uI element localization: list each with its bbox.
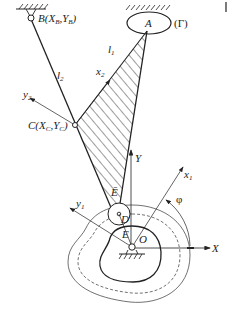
ground-support-a <box>126 5 170 10</box>
label-phi: φ <box>176 193 182 205</box>
label-y: Y <box>135 152 143 164</box>
label-o: O <box>139 233 147 245</box>
label-b: B(XB,YB) <box>38 12 77 26</box>
label-e: E <box>121 228 129 240</box>
fixed-pivot-o <box>119 244 145 259</box>
label-d: D <box>120 213 129 225</box>
label-x2: x2 <box>95 65 105 79</box>
label-c: C(XC,YC) <box>28 119 68 133</box>
label-l2: l2 <box>57 69 64 83</box>
label-e-bar: Ē <box>110 186 118 198</box>
label-l1: l1 <box>108 43 115 57</box>
coupler-link-shaded <box>75 31 147 210</box>
pivot-b <box>28 15 34 21</box>
label-a: A <box>144 17 152 29</box>
label-x1: x1 <box>183 168 192 182</box>
label-y2: y2 <box>22 88 32 102</box>
mechanism-diagram: B(XB,YB) A (Γ) l1 x2 l2 y2 C(XC,YC) Ē Y … <box>0 0 229 324</box>
label-gamma: (Γ) <box>174 17 188 30</box>
joint-c <box>73 123 78 128</box>
label-x: X <box>211 242 220 254</box>
label-y1: y1 <box>75 197 84 211</box>
